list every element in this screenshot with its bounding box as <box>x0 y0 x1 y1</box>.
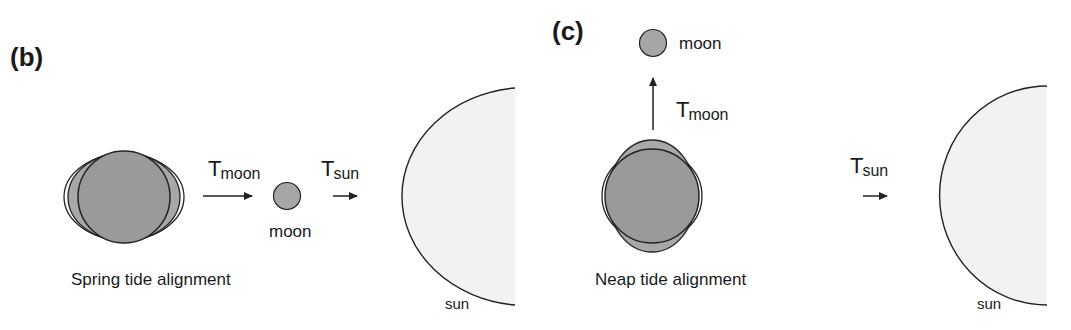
sun-disk <box>940 86 1047 305</box>
sun-disk <box>402 88 515 305</box>
moon-force-label: Tmoon <box>676 97 728 123</box>
panel-c-label: (c) <box>552 16 584 46</box>
panel-c: (c) moon Tmoon Neap tide alignment Tsun … <box>552 16 1047 312</box>
earth-circle <box>78 151 170 243</box>
sun-force-label: Tsun <box>321 156 359 182</box>
earth-circle <box>605 149 699 243</box>
sun-label: sun <box>445 295 469 312</box>
sun-force-label: Tsun <box>850 153 888 179</box>
sun-label: sun <box>977 295 1001 312</box>
spring-caption: Spring tide alignment <box>71 270 231 289</box>
panel-b: (b) Tmoon moon Tsun sun Spring tide alig… <box>10 42 515 312</box>
tide-diagram: (b) Tmoon moon Tsun sun Spring tide alig… <box>0 0 1071 330</box>
moon-circle <box>274 183 301 210</box>
neap-caption: Neap tide alignment <box>595 270 746 289</box>
earth-spring <box>64 151 184 243</box>
moon-circle <box>640 30 667 57</box>
moon-force-label: Tmoon <box>208 156 260 182</box>
earth-neap <box>602 140 702 252</box>
moon-label: moon <box>269 222 312 241</box>
moon-label: moon <box>679 34 722 53</box>
panel-b-label: (b) <box>10 42 43 72</box>
